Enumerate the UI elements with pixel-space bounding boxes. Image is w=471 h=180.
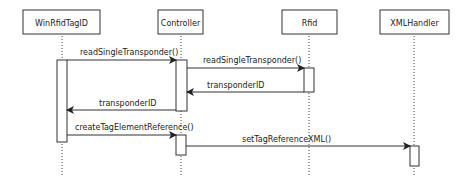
message-label: readSingleTransponder() <box>80 48 178 57</box>
activation-winrfidtagid <box>57 60 67 142</box>
message-set-tag-reference-xml: setTagReferenceXML() <box>186 135 410 146</box>
activation-controller-2 <box>176 135 186 155</box>
participant-winrfidtagid: WinRfidTagID <box>23 10 100 34</box>
activation-rfid <box>304 68 314 92</box>
sequence-diagram: WinRfidTagID Controller Rfid XMLHandler … <box>0 0 471 180</box>
message-label: readSingleTransponder() <box>203 56 301 65</box>
message-label: setTagReferenceXML() <box>242 135 331 144</box>
participant-controller: Controller <box>158 10 203 34</box>
activation-controller-1 <box>176 60 187 111</box>
participant-label: Controller <box>161 19 201 28</box>
message-read-single-transponder-1: readSingleTransponder() <box>67 48 178 60</box>
message-label: createTagElementReference() <box>75 123 194 132</box>
message-transponder-id-return-1: transponderID <box>187 81 304 92</box>
message-create-tag-element-reference: createTagElementReference() <box>67 123 194 135</box>
participant-label: XMLHandler <box>390 19 439 28</box>
message-label: transponderID <box>99 99 156 108</box>
message-transponder-id-return-2: transponderID <box>67 99 176 110</box>
participant-xmlhandler: XMLHandler <box>380 10 449 34</box>
participant-label: Rfid <box>302 19 318 28</box>
participant-rfid: Rfid <box>282 10 337 34</box>
participant-label: WinRfidTagID <box>35 19 88 28</box>
message-read-single-transponder-2: readSingleTransponder() <box>187 56 304 68</box>
message-label: transponderID <box>207 81 264 90</box>
activation-xmlhandler <box>410 146 419 166</box>
